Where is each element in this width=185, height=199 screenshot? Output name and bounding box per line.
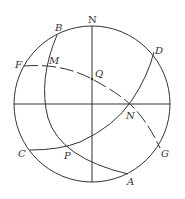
label-P: P — [63, 150, 71, 161]
label-C: C — [18, 148, 26, 159]
label-B: B — [54, 22, 62, 33]
label-D: D — [154, 45, 163, 56]
label-Q: Q — [95, 68, 103, 79]
celestial-sphere-diagram: N B D F M Q N C P G A — [0, 0, 185, 199]
label-G: G — [161, 148, 169, 159]
label-N-top: N — [88, 14, 97, 25]
label-A: A — [126, 176, 134, 187]
label-M: M — [48, 55, 60, 66]
point-Q — [91, 78, 93, 80]
label-F: F — [14, 59, 23, 70]
label-N-prime: N — [125, 110, 136, 121]
